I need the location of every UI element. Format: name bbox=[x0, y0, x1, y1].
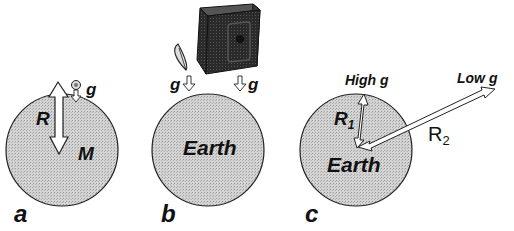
radius-label: R bbox=[36, 108, 50, 129]
panel-b: g g Earth b bbox=[152, 4, 264, 227]
down-arrow-right-icon bbox=[234, 76, 246, 91]
feather-icon bbox=[175, 44, 187, 70]
mass-label: M bbox=[78, 143, 95, 164]
r2-label: R2 bbox=[428, 123, 450, 148]
earth-circle bbox=[300, 94, 412, 206]
gravity-label: g bbox=[85, 80, 97, 99]
gravity-label-left: g bbox=[169, 75, 181, 94]
low-g-label: Low g bbox=[457, 70, 498, 86]
panel-c: High g Low g R1 R2 Earth c bbox=[300, 70, 498, 227]
gravity-label-right: g bbox=[247, 75, 259, 94]
panel-label-a: a bbox=[14, 200, 27, 227]
panel-label-b: b bbox=[161, 200, 176, 227]
down-arrow-left-icon bbox=[183, 76, 195, 91]
panel-a: g R M a bbox=[6, 80, 118, 227]
gravity-diagram: g R M a g g Earth b bbox=[0, 0, 514, 231]
panel-label-c: c bbox=[305, 200, 318, 227]
earth-label: Earth bbox=[183, 136, 237, 159]
high-g-label: High g bbox=[345, 72, 389, 88]
earth-label: Earth bbox=[327, 153, 381, 176]
safe-icon bbox=[197, 4, 260, 74]
